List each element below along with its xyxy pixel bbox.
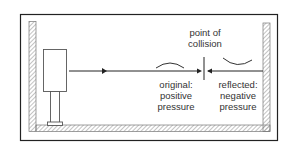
original-pulse-label: original: positive pressure — [150, 79, 202, 112]
original-label-line2: positive — [150, 90, 202, 101]
collision-label: point of collision — [183, 27, 227, 49]
wave-tube-diagram — [0, 0, 299, 154]
speaker-base — [48, 122, 63, 126]
original-label-line3: pressure — [150, 101, 202, 112]
negative-pulse-curve — [223, 58, 252, 65]
reflected-label-line1: reflected: — [210, 79, 266, 90]
original-label-line1: original: — [150, 79, 202, 90]
speaker-stand — [51, 92, 60, 123]
collision-label-line2: collision — [183, 38, 227, 49]
reflected-pulse-label: reflected: negative pressure — [210, 79, 266, 112]
arrowhead-forward-icon — [197, 69, 202, 74]
reflected-label-line2: negative — [210, 90, 266, 101]
arrowhead-mid-icon — [102, 68, 107, 74]
positive-pulse-curve — [156, 63, 184, 68]
reflected-label-line3: pressure — [210, 101, 266, 112]
right-wall-hatch — [263, 23, 270, 132]
floor-hatch — [36, 125, 270, 132]
collision-label-line1: point of — [183, 27, 227, 38]
speaker-box — [44, 50, 67, 92]
left-wall-hatch — [29, 22, 36, 132]
arrowhead-reflected-icon — [207, 69, 212, 74]
